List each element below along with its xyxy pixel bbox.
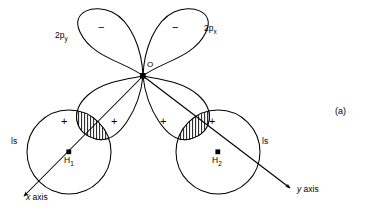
sign-minus-2px-upper: − bbox=[172, 22, 178, 33]
hydrogen-1-nucleus-dot bbox=[66, 149, 71, 154]
sign-minus-2py-upper: − bbox=[98, 22, 104, 33]
y-axis-label: y axis bbox=[297, 185, 319, 194]
sign-plus-hydrogen-2: + bbox=[209, 116, 215, 127]
overlap-region-right bbox=[143, 76, 209, 140]
x-axis-label: x axis bbox=[26, 193, 48, 202]
y-axis-line bbox=[143, 76, 290, 188]
hydrogen-1-nucleus-label: H1 bbox=[64, 156, 74, 167]
orbital-label-2px: 2px bbox=[204, 24, 217, 35]
sign-plus-hydrogen-1: + bbox=[61, 116, 67, 127]
oxygen-nucleus-dot bbox=[140, 73, 146, 79]
orbital-label-2py: 2py bbox=[55, 31, 68, 42]
orbital-diagram-figure: 2py 2px O ls ls H1 H2 x axis y axis (a) … bbox=[0, 0, 376, 213]
hydrogen-1-orbital-label: ls bbox=[11, 137, 17, 146]
oxygen-nucleus-label: O bbox=[147, 61, 153, 69]
x-axis-line bbox=[24, 76, 143, 196]
oxygen-2py-upper-lobe bbox=[78, 9, 143, 76]
hydrogen-2-nucleus-label: H2 bbox=[212, 156, 222, 167]
sign-plus-2py-lower: + bbox=[111, 116, 117, 127]
panel-label: (a) bbox=[335, 107, 346, 116]
hydrogen-2-nucleus-dot bbox=[215, 149, 220, 154]
hydrogen-2-orbital-label: ls bbox=[262, 137, 268, 146]
sign-plus-2px-lower: + bbox=[160, 116, 166, 127]
